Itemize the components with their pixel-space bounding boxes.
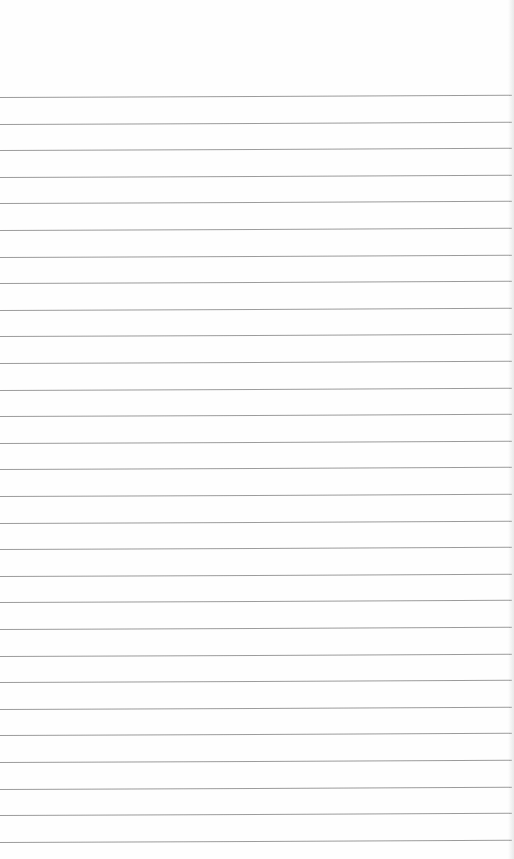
ruled-line [0,175,512,178]
ruled-line [0,467,512,470]
ruled-line [0,813,512,816]
ruled-line [0,148,512,151]
ruled-line [0,441,512,444]
ruled-line [0,680,512,683]
ruled-line [0,574,512,577]
ruled-line [0,121,512,124]
ruled-line [0,228,512,231]
ruled-line [0,733,512,736]
page-edge-shadow [508,0,514,859]
ruled-line [0,361,512,364]
ruled-line [0,387,512,390]
ruled-line [0,201,512,204]
ruled-line [0,95,512,98]
ruled-line [0,627,512,630]
ruled-line [0,760,512,763]
ruled-line [0,281,512,284]
faint-bleedthrough-header [4,2,444,12]
ruled-line [0,494,512,497]
ruled-line [0,414,512,417]
ruled-line [0,308,512,311]
ruled-line [0,600,512,603]
ruled-line [0,653,512,656]
ruled-line [0,520,512,523]
ruled-line [0,547,512,550]
ruled-line [0,254,512,257]
lined-paper-page [0,0,514,859]
ruled-line [0,707,512,710]
ruled-line [0,840,512,843]
ruled-line [0,786,512,789]
ruled-line [0,334,512,337]
